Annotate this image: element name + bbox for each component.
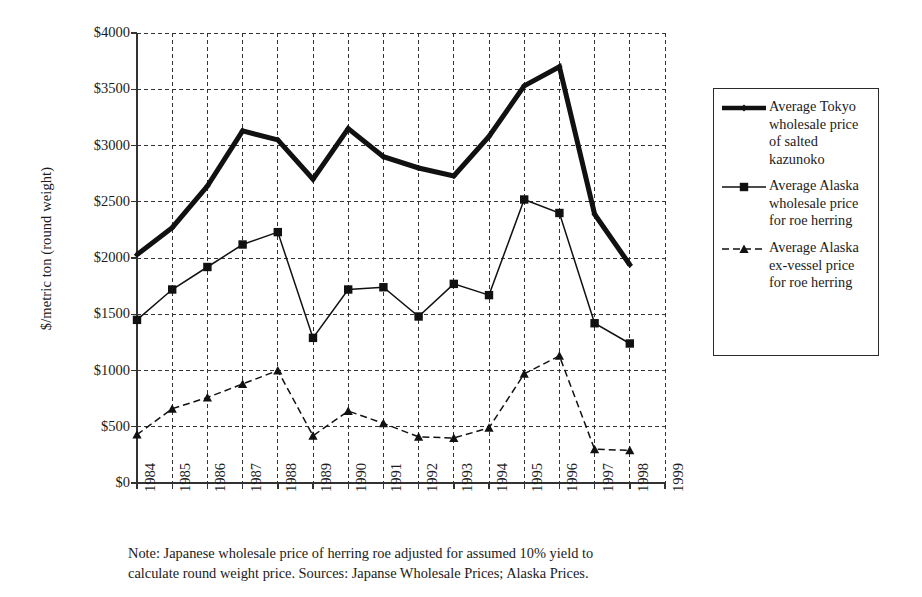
- x-axis-tick-label: 1994: [495, 434, 510, 492]
- footnote-line-2: calculate round weight price. Sources: J…: [128, 563, 706, 583]
- chart-plot-area: $/metric ton (round weight) $0$500$1000$…: [0, 0, 700, 520]
- x-axis-tick-label: 1997: [601, 434, 616, 492]
- footnote-line-1: Note: Japanese wholesale price of herrin…: [128, 543, 706, 563]
- x-axis-tick-label: 1998: [636, 434, 651, 492]
- x-axis-tick-label: 1987: [249, 434, 264, 492]
- legend-square-icon: [720, 178, 768, 196]
- x-axis-tick-label: 1995: [530, 434, 545, 492]
- x-axis-tick-label: 1993: [460, 434, 475, 492]
- figure-herring-prices: $/metric ton (round weight) $0$500$1000$…: [0, 0, 922, 597]
- x-axis-tick-label: 1999: [671, 434, 686, 492]
- x-axis-tick-label: 1985: [178, 434, 193, 492]
- x-axis-tick-label: 1989: [319, 434, 334, 492]
- x-axis-tick-label: 1991: [389, 434, 404, 492]
- legend-label: Average Tokyo wholesale price of salted …: [768, 98, 872, 168]
- legend-entry: Average Tokyo wholesale price of salted …: [720, 98, 872, 168]
- x-axis-tick-label: 1986: [213, 434, 228, 492]
- legend-label: Average Alaska ex-vessel price for roe h…: [768, 239, 872, 292]
- x-axis-tick-label: 1992: [425, 434, 440, 492]
- x-axis-tick-label: 1990: [354, 434, 369, 492]
- legend-diamond-icon: [720, 99, 768, 117]
- legend-label: Average Alaska wholesale price for roe h…: [768, 177, 872, 230]
- legend-triangle-icon: [720, 240, 768, 258]
- x-axis-tick-label: 1996: [565, 434, 580, 492]
- chart-legend: Average Tokyo wholesale price of salted …: [713, 88, 879, 356]
- legend-entry: Average Alaska wholesale price for roe h…: [720, 177, 872, 230]
- x-axis-tick-labels: 1984198519861987198819891990199119921993…: [0, 0, 700, 560]
- legend-entry: Average Alaska ex-vessel price for roe h…: [720, 239, 872, 292]
- x-axis-tick-label: 1988: [284, 434, 299, 492]
- chart-footnote: Note: Japanese wholesale price of herrin…: [128, 543, 706, 584]
- x-axis-tick-label: 1984: [143, 434, 158, 492]
